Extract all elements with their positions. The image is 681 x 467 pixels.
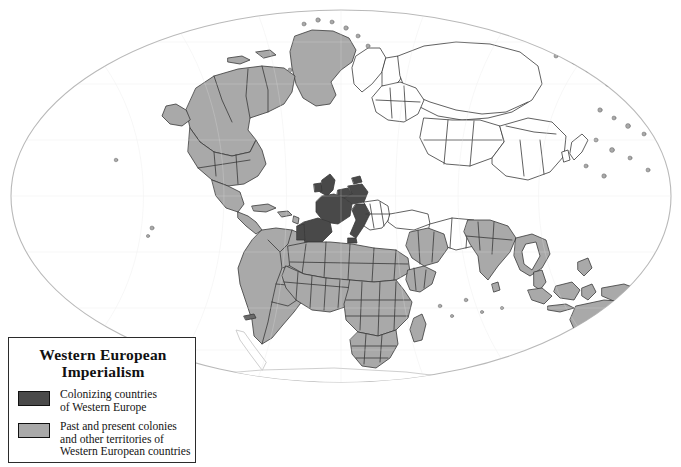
legend-colonizers-line-1: Colonizing countries <box>60 389 157 402</box>
legend-entry-colonies: Past and present colonies and other terr… <box>18 421 188 459</box>
legend-title-line-2: Imperialism <box>18 363 188 380</box>
legend-colonizers-line-2: of Western Europe <box>60 402 157 415</box>
legend-colonies-line-1: Past and present colonies <box>60 421 190 434</box>
dark-gray-swatch <box>18 391 50 406</box>
legend-colonies-line-3: Western European countries <box>60 446 190 459</box>
legend-title-line-1: Western European <box>18 346 188 363</box>
region-tasmania <box>622 358 634 368</box>
light-gray-swatch <box>18 423 50 438</box>
map-legend: Western European Imperialism Colonizing … <box>8 337 196 463</box>
region-portugal <box>297 224 305 240</box>
legend-entry-colonizers-text: Colonizing countries of Western Europe <box>60 389 157 414</box>
region-sicily-sardinia <box>348 238 357 243</box>
region-australia <box>570 300 652 356</box>
legend-entry-colonizers: Colonizing countries of Western Europe <box>18 389 188 414</box>
legend-entry-colonies-text: Past and present colonies and other terr… <box>60 421 190 459</box>
legend-title: Western European Imperialism <box>18 346 188 380</box>
region-new-zealand <box>664 340 676 354</box>
map-figure: Western European Imperialism Colonizing … <box>0 0 681 467</box>
region-ireland <box>314 183 322 192</box>
